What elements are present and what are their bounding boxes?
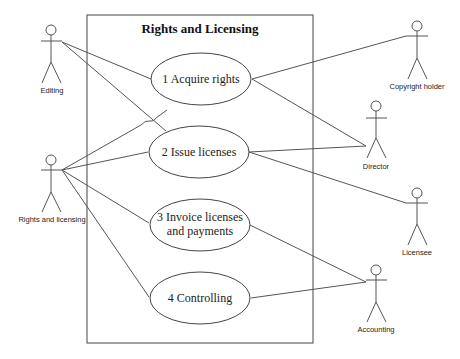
stick-figure-icon bbox=[41, 25, 62, 83]
use-case-issue-licenses[interactable]: 2 Issue licenses bbox=[149, 126, 249, 178]
use-case-label: 4 Controlling bbox=[168, 291, 232, 305]
actor-licensee[interactable]: Licensee bbox=[402, 188, 432, 257]
stick-figure-icon bbox=[366, 265, 387, 322]
stick-figure-icon bbox=[41, 155, 62, 212]
use-case-label: 2 Issue licenses bbox=[162, 145, 237, 159]
use-case-acquire-rights[interactable]: 1 Acquire rights bbox=[151, 53, 251, 105]
use-case-invoice-licenses[interactable]: 3 Invoice licenses and payments bbox=[150, 199, 250, 251]
use-case-label: 1 Acquire rights bbox=[162, 72, 240, 86]
stick-figure-icon bbox=[366, 101, 387, 158]
actor-label: Director bbox=[363, 162, 390, 171]
actor-copyright-holder[interactable]: Copyright holder bbox=[389, 21, 445, 91]
use-case-diagram: Rights and Licensing 1 Acquire rights bbox=[0, 0, 460, 359]
association-director-uc1 bbox=[252, 79, 366, 146]
association-director-uc2 bbox=[249, 146, 366, 152]
actor-label: Accounting bbox=[357, 325, 394, 334]
association-editing-uc2 bbox=[62, 42, 166, 131]
stick-figure-icon bbox=[406, 188, 428, 245]
system-boundary-title: Rights and Licensing bbox=[141, 21, 259, 36]
stick-figure-icon bbox=[406, 21, 428, 79]
actor-label: Licensee bbox=[402, 248, 432, 257]
use-case-label-line1: 3 Invoice licenses bbox=[157, 210, 243, 224]
actor-label: Editing bbox=[41, 86, 64, 95]
association-accounting-uc4 bbox=[251, 282, 366, 298]
association-rights-uc4 bbox=[62, 170, 149, 297]
actor-accounting[interactable]: Accounting bbox=[357, 265, 394, 334]
actor-editing[interactable]: Editing bbox=[41, 25, 64, 95]
actor-label: Copyright holder bbox=[389, 82, 445, 91]
use-case-controlling[interactable]: 4 Controlling bbox=[150, 272, 250, 324]
association-copyright-uc1 bbox=[252, 36, 406, 79]
association-rights-uc2 bbox=[62, 152, 148, 170]
association-accounting-uc3 bbox=[250, 225, 366, 282]
actor-label: Rights and licensing bbox=[18, 215, 85, 224]
association-licensee-uc2 bbox=[249, 152, 406, 203]
association-editing-uc1 bbox=[62, 42, 151, 79]
actor-director[interactable]: Director bbox=[363, 101, 390, 171]
use-case-label-line2: and payments bbox=[167, 224, 234, 238]
